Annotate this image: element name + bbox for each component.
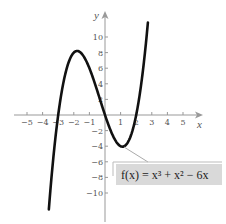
y-tick-label: 10	[93, 33, 103, 42]
x-tick-label: 5	[180, 118, 185, 127]
y-tick-label: −4	[91, 142, 103, 151]
y-tick-label: 4	[98, 80, 103, 89]
x-tick-label: −5	[21, 118, 33, 127]
y-axis-label: y	[93, 9, 99, 21]
x-tick-label: 1	[118, 118, 123, 127]
y-tick-label: −2	[91, 127, 103, 136]
function-label: f(x) = x³ + x² − 6x	[121, 168, 209, 182]
annotation-leader-line	[124, 147, 148, 162]
axes	[14, 11, 203, 222]
x-tick-label: 4	[165, 118, 170, 127]
x-tick-label: −2	[68, 118, 80, 127]
y-tick-label: 8	[98, 49, 103, 58]
x-tick-label: −4	[37, 118, 49, 127]
y-tick-label: −8	[91, 173, 103, 182]
x-tick-label: 3	[149, 118, 154, 127]
y-tick-label: −10	[86, 189, 103, 198]
x-ticks: −5−4−3−2−112345	[21, 112, 185, 127]
function-graph: −5−4−3−2−112345 −10−8−6−4−2246810 x y f(…	[0, 0, 226, 224]
y-tick-label: −6	[91, 158, 103, 167]
y-tick-label: 6	[98, 64, 103, 73]
x-axis-label: x	[196, 118, 202, 130]
